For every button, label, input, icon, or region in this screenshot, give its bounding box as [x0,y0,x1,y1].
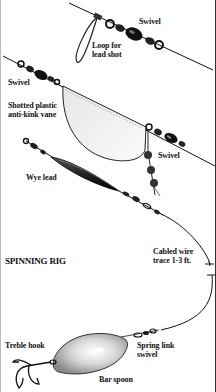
label-loop-lead-shot: Loop for lead shot [92,41,122,59]
label-cabled-wire-trace: Cabled wire trace 1-3 ft. [153,247,193,265]
label-bar-spoon: Bar spoon [99,375,133,384]
spinning-rig-diagram: Swivel Loop for lead shot Swivel Shotted… [0,0,216,392]
label-swivel-top: Swivel [139,17,161,26]
label-swivel-right: Swivel [158,151,180,160]
label-swivel-left: Swivel [8,78,30,87]
wye-lead-assembly [24,139,216,331]
label-wye-lead: Wye lead [26,173,57,182]
label-treble-hook: Treble hook [5,341,45,350]
label-anti-kink-vane: Shotted plastic anti-kink vane [8,101,57,119]
diagram-title: SPINNING RIG [5,257,66,266]
label-spring-link-swivel: Spring link swivel [137,341,174,359]
top-swivel-assembly [69,3,213,70]
